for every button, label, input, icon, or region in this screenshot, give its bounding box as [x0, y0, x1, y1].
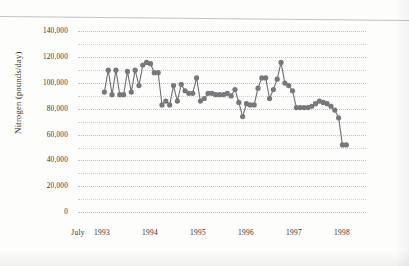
data-point	[179, 82, 184, 87]
data-series	[78, 25, 366, 212]
data-point	[102, 89, 107, 94]
page-edge-shadow-right	[395, 0, 409, 266]
data-point	[332, 108, 337, 113]
data-point	[229, 93, 234, 98]
data-point	[286, 83, 291, 88]
data-point	[278, 60, 283, 65]
data-point	[163, 98, 168, 103]
x-tick-label: 1995	[190, 228, 206, 237]
x-tick-label: 1994	[142, 228, 158, 237]
data-point	[236, 100, 241, 105]
data-point	[133, 68, 138, 73]
data-point	[121, 92, 126, 97]
data-point	[171, 83, 176, 88]
x-tick-label: 1993	[94, 228, 110, 237]
data-point	[106, 68, 111, 73]
y-tick-label: 40,000	[6, 156, 68, 164]
data-point	[240, 114, 245, 119]
data-point	[125, 69, 130, 74]
data-point	[252, 102, 257, 107]
data-point	[175, 98, 180, 103]
plot-area	[78, 25, 366, 212]
data-point	[194, 75, 199, 80]
page-edge-shadow-bottom	[0, 250, 409, 266]
data-point	[136, 83, 141, 88]
series-line	[104, 62, 346, 145]
y-axis-title: Nitrogen (pounds/day)	[14, 31, 23, 155]
data-point	[275, 77, 280, 82]
data-point	[336, 115, 341, 120]
data-point	[202, 96, 207, 101]
gridline	[78, 212, 366, 213]
data-point	[159, 102, 164, 107]
x-tick-label: 1997	[286, 228, 302, 237]
data-point	[290, 88, 295, 93]
data-point	[232, 87, 237, 92]
x-tick-label: 1996	[238, 228, 254, 237]
data-point	[263, 75, 268, 80]
data-point	[113, 68, 118, 73]
data-point	[344, 142, 349, 147]
data-point	[267, 96, 272, 101]
data-point	[328, 104, 333, 109]
data-point	[190, 91, 195, 96]
data-point	[148, 61, 153, 66]
data-point	[167, 102, 172, 107]
data-point	[255, 86, 260, 91]
scanned-page: 020,00040,00060,00080,000100,000120,0001…	[0, 0, 409, 266]
data-point	[129, 89, 134, 94]
data-point	[271, 87, 276, 92]
nitrogen-time-series-chart: 020,00040,00060,00080,000100,000120,0001…	[0, 0, 409, 266]
data-point	[156, 70, 161, 75]
x-tick-label: 1998	[334, 228, 350, 237]
y-tick-label: 20,000	[6, 182, 68, 190]
data-point	[109, 92, 114, 97]
x-tick-label: July	[71, 228, 85, 237]
y-tick-label: 0	[6, 208, 68, 216]
